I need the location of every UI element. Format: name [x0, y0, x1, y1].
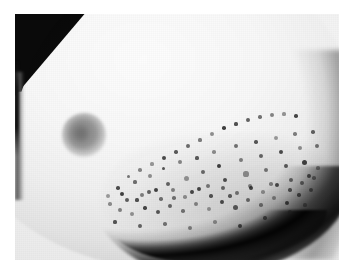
caption-layer: [0, 0, 354, 273]
clinical-photograph-figure: [0, 0, 354, 273]
